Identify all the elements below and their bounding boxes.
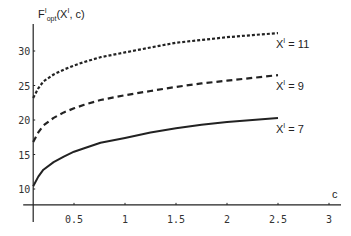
y-tick-label: 20 [18,115,30,126]
x-tick-label: 3 [326,214,332,225]
line-chart: 0.511.522.53 1015202530 FIopt(XI, c) c X… [0,0,351,236]
curves [33,33,278,186]
y-tick-label: 30 [18,46,30,57]
x-tick-label: 1.5 [167,214,185,225]
x-axis-title: c [332,188,338,200]
y-axis-title: FIopt(XI, c) [38,7,85,23]
curve-labels: XI = 11XI = 9XI = 7 [276,37,309,135]
y-tick-label: 15 [18,150,30,161]
x-tick-label: 0.5 [65,214,83,225]
x-tick-label: 2 [224,214,230,225]
y-tick-label: 10 [18,184,30,195]
curve-label: XI = 7 [276,122,304,135]
x-tick-label: 1 [122,214,128,225]
curve-label: XI = 9 [276,79,304,92]
x-tick-label: 2.5 [269,214,287,225]
y-tick-label: 25 [18,81,30,92]
curve-series-2 [33,118,278,186]
x-ticks: 0.511.522.53 [65,203,332,225]
curve-series-0 [33,33,278,98]
curve-label: XI = 11 [276,37,309,50]
